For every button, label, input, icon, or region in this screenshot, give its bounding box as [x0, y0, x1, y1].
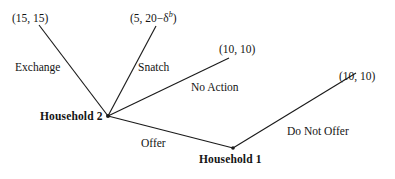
payoff-no-action: (10, 10) — [219, 44, 255, 56]
action-label-offer: Offer — [141, 138, 166, 150]
node-dot-household-2 — [106, 114, 110, 118]
action-label-exchange: Exchange — [15, 62, 60, 74]
payoff-snatch: (5, 20−δb) — [130, 13, 177, 25]
payoff-snatch-suffix: ) — [173, 12, 177, 24]
payoff-do-not-offer: (10, 10) — [339, 71, 375, 83]
action-label-no-action: No Action — [191, 82, 239, 94]
game-tree-figure: (15, 15) (5, 20−δb) (10, 10) (10, 10) Ex… — [0, 0, 395, 179]
payoff-snatch-prefix: (5, 20−δ — [130, 12, 169, 24]
node-label-household-1: Household 1 — [199, 154, 262, 166]
action-label-do-not-offer: Do Not Offer — [287, 126, 349, 138]
node-label-household-2: Household 2 — [40, 111, 103, 123]
node-dot-household-1 — [231, 146, 235, 150]
payoff-exchange: (15, 15) — [12, 13, 48, 25]
edge-offer — [108, 116, 233, 148]
action-label-snatch: Snatch — [138, 62, 169, 74]
